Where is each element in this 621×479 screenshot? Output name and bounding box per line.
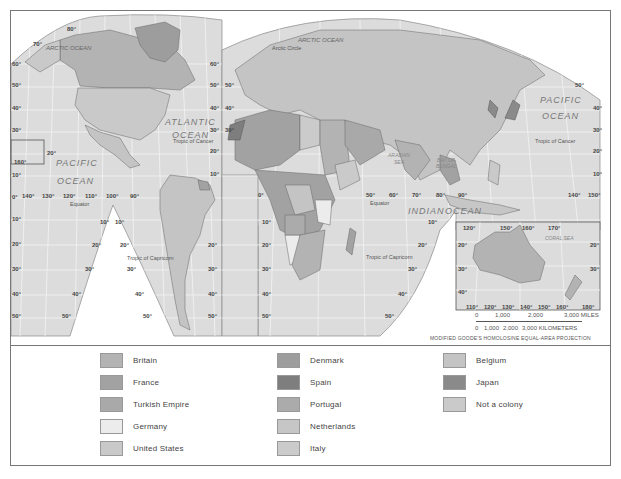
svg-text:10°: 10°: [12, 172, 22, 178]
svg-text:50°: 50°: [366, 192, 376, 198]
scale-miles-3000: 3,000 MILES: [564, 312, 599, 318]
legend-item-united-states: United States: [100, 440, 184, 456]
svg-text:30°: 30°: [208, 266, 218, 272]
svg-text:30°: 30°: [12, 127, 22, 133]
bay-of-bengal-label-2: BENGAL: [436, 163, 457, 169]
legend-label: Turkish Empire: [133, 400, 189, 409]
svg-text:40°: 40°: [593, 105, 603, 111]
svg-text:30°: 30°: [210, 127, 220, 133]
svg-text:160°: 160°: [522, 225, 535, 231]
svg-text:10°: 10°: [12, 216, 22, 222]
svg-text:30°: 30°: [590, 266, 600, 272]
svg-text:20°: 20°: [418, 242, 428, 248]
svg-text:20°: 20°: [120, 242, 130, 248]
legend-item-germany: Germany: [100, 418, 167, 434]
svg-text:80°: 80°: [67, 26, 77, 32]
svg-text:90°: 90°: [130, 193, 140, 199]
svg-text:180°: 180°: [582, 304, 595, 310]
arctic-ocean-east-label: ARCTIC OCEAN: [297, 37, 344, 43]
svg-text:30°: 30°: [593, 127, 603, 133]
svg-text:110°: 110°: [85, 193, 98, 199]
svg-text:70°: 70°: [33, 41, 43, 47]
svg-text:30°: 30°: [408, 266, 418, 272]
coral-sea-label: CORAL SEA: [545, 235, 574, 241]
germany-swatch: [100, 419, 123, 434]
svg-text:50°: 50°: [575, 82, 585, 88]
svg-text:20°: 20°: [210, 148, 220, 154]
svg-text:60°: 60°: [210, 61, 220, 67]
svg-text:50°: 50°: [385, 313, 395, 319]
legend-item-not-a-colony: Not a colony: [443, 396, 523, 412]
legend-label: Japan: [476, 378, 499, 387]
arabian-sea-label-1: ARABIAN: [387, 152, 410, 158]
scale-km-0: 0: [475, 325, 478, 331]
svg-text:10°: 10°: [210, 171, 220, 177]
legend-item-spain: Spain: [277, 374, 331, 390]
legend-item-belgium: Belgium: [443, 352, 506, 368]
equator-east-label: Equator: [370, 200, 389, 206]
scale-miles-2000: 2,000: [528, 312, 543, 318]
svg-text:20°: 20°: [590, 242, 600, 248]
legend-item-denmark: Denmark: [277, 352, 344, 368]
svg-text:40°: 40°: [72, 291, 82, 297]
svg-text:20°: 20°: [208, 242, 218, 248]
portugal-swatch: [277, 397, 300, 412]
svg-text:50°: 50°: [208, 313, 218, 319]
legend-label: Italy: [310, 444, 326, 453]
projection-note: MODIFIED GOODE'S HOMOLOSINE EQUAL-AREA P…: [430, 335, 591, 341]
svg-text:40°: 40°: [262, 291, 272, 297]
scale-miles-0: 0: [475, 312, 478, 318]
svg-text:100°: 100°: [106, 193, 119, 199]
eastern-hemisphere-lobe: [222, 19, 600, 336]
legend-item-turkish-empire: Turkish Empire: [100, 396, 189, 412]
svg-text:120°: 120°: [484, 304, 497, 310]
svg-text:30°: 30°: [262, 266, 272, 272]
netherlands-swatch: [277, 419, 300, 434]
japan-swatch: [443, 375, 466, 390]
svg-text:150°: 150°: [538, 304, 551, 310]
svg-text:40°: 40°: [225, 105, 235, 111]
legend-label: France: [133, 378, 159, 387]
arctic-ocean-west-label: ARCTIC OCEAN: [45, 45, 92, 51]
svg-text:50°: 50°: [262, 313, 272, 319]
svg-text:10°: 10°: [115, 219, 125, 225]
svg-text:140°: 140°: [568, 192, 581, 198]
scale-km-1000: 1,000: [484, 325, 499, 331]
spain-swatch: [277, 375, 300, 390]
svg-text:30°: 30°: [127, 266, 137, 272]
world-map: ARCTIC OCEAN ARCTIC OCEAN ATLANTIC OCEAN…: [11, 11, 610, 346]
not-a-colony-swatch: [443, 397, 466, 412]
legend-label: Germany: [133, 422, 167, 431]
svg-text:30°: 30°: [458, 266, 468, 272]
svg-text:60°: 60°: [389, 192, 399, 198]
legend-item-japan: Japan: [443, 374, 499, 390]
svg-text:10°: 10°: [593, 171, 603, 177]
legend-item-britain: Britain: [100, 352, 157, 368]
svg-text:30°: 30°: [85, 266, 95, 272]
denmark-swatch: [277, 353, 300, 368]
svg-text:40°: 40°: [458, 289, 468, 295]
svg-text:20°: 20°: [47, 150, 57, 156]
svg-text:20°: 20°: [262, 242, 272, 248]
svg-text:0°: 0°: [258, 192, 264, 198]
france-swatch: [100, 375, 123, 390]
svg-text:50°: 50°: [62, 313, 72, 319]
scale-km-2000: 2,000: [503, 325, 518, 331]
svg-text:140°: 140°: [520, 304, 533, 310]
scale-miles-1000: 1,000: [495, 312, 510, 318]
legend-label: Netherlands: [310, 422, 355, 431]
svg-text:150°: 150°: [588, 192, 601, 198]
tropic-of-capricorn-west-label: Tropic of Capricorn: [127, 255, 174, 261]
svg-text:130°: 130°: [42, 193, 55, 199]
svg-text:20°: 20°: [593, 148, 603, 154]
svg-text:120°: 120°: [463, 225, 476, 231]
svg-text:40°: 40°: [210, 105, 220, 111]
svg-text:80°: 80°: [436, 192, 446, 198]
pacific-east-label-1: PACIFIC: [540, 95, 582, 105]
scale-bar: [476, 321, 582, 322]
angola: [285, 215, 305, 235]
legend: Britain France Turkish Empire Germany Un…: [11, 346, 610, 465]
equator-west-label: Equator: [70, 201, 89, 207]
svg-text:20°: 20°: [458, 242, 468, 248]
svg-text:60°: 60°: [12, 61, 22, 67]
